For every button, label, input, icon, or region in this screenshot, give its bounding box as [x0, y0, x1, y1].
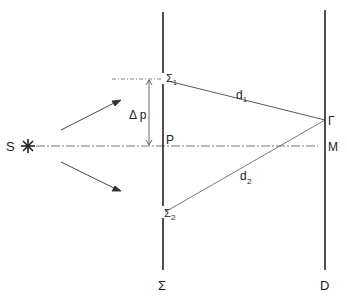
delta-p-label: Δ p [129, 108, 147, 122]
path-d2 [165, 120, 325, 212]
screen-d-label: D [320, 278, 329, 293]
point-gamma-label: Γ [328, 114, 335, 128]
incident-ray-lower [61, 162, 121, 191]
path-d1-subscript: 1 [243, 96, 247, 103]
source-label: S [6, 139, 15, 154]
point-m-label: M [328, 140, 338, 154]
incident-ray-upper [61, 100, 121, 130]
path-d2-label: d [240, 169, 247, 183]
slit2-subscript: 2 [171, 213, 176, 222]
path-d2-subscript: 2 [247, 177, 252, 186]
path-d1-label: d [236, 88, 243, 102]
source-star-icon [21, 139, 35, 153]
interference-diagram: S Δ p Σ 1 P Σ 2 d 1 d 2 Γ M Σ D [0, 0, 347, 298]
delta-p-dimension [146, 80, 152, 145]
point-p-label: P [166, 133, 174, 147]
screen-sigma-label: Σ [158, 278, 166, 293]
